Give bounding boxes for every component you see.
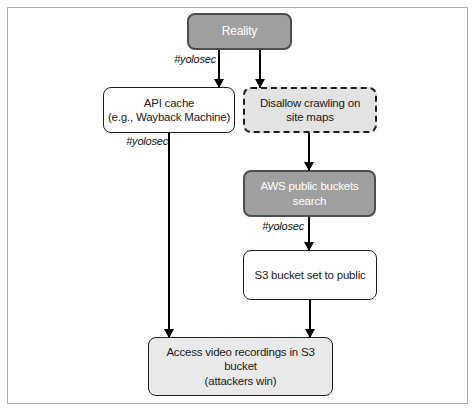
arrow-shaft [168, 133, 170, 338]
diagram-canvas: Reality API cache (e.g., Wayback Machine… [0, 0, 476, 410]
node-aws-line2: search [293, 194, 326, 209]
node-reality: Reality [187, 13, 292, 50]
edge-label-yolosec-reality: #yolosec [150, 53, 216, 65]
arrow-reality-to-disallow [254, 50, 266, 88]
edge-label-yolosec-aws: #yolosec [239, 220, 304, 232]
node-aws-line1: AWS public buckets [260, 179, 358, 194]
node-s3-public: S3 bucket set to public [243, 250, 377, 300]
arrow-disallow-to-aws [303, 133, 315, 171]
node-disallow-line2: site maps [286, 110, 333, 125]
arrowhead-down-icon [214, 79, 224, 88]
node-access-line1: Access video recordings in S3 bucket [149, 345, 332, 374]
arrowhead-down-icon [304, 242, 314, 251]
node-api-cache-line2: (e.g., Wayback Machine) [108, 110, 230, 125]
node-api-cache: API cache (e.g., Wayback Machine) [103, 87, 235, 133]
arrowhead-down-icon [305, 329, 315, 338]
node-api-cache-line1: API cache [144, 96, 195, 111]
node-access-recordings: Access video recordings in S3 bucket (at… [148, 337, 333, 396]
node-disallow-crawling: Disallow crawling on site maps [243, 87, 377, 133]
arrowhead-down-icon [255, 79, 265, 88]
node-reality-label: Reality [222, 24, 257, 39]
node-aws-public-buckets: AWS public buckets search [243, 170, 376, 217]
edge-label-yolosec-api: #yolosec [102, 135, 168, 147]
node-s3-label: S3 bucket set to public [254, 268, 365, 283]
arrow-aws-to-s3 [303, 217, 315, 251]
node-disallow-line1: Disallow crawling on [260, 96, 360, 111]
node-access-line2: (attackers win) [205, 374, 277, 389]
arrowhead-down-icon [304, 162, 314, 171]
arrowhead-down-icon [164, 329, 174, 338]
arrow-api-cache-to-access [163, 133, 175, 338]
arrow-s3-to-access [304, 300, 316, 338]
